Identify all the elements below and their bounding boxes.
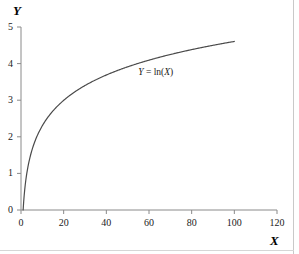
x-tick-label: 60 xyxy=(138,218,160,228)
x-axis-title: X xyxy=(270,234,279,247)
y-tick-label: 4 xyxy=(1,59,13,69)
chart-plot-svg xyxy=(0,0,299,254)
y-tick-label: 2 xyxy=(1,132,13,142)
x-tick-label: 40 xyxy=(95,218,117,228)
annotation-function: ln( xyxy=(154,67,165,77)
x-tick-label: 0 xyxy=(10,218,32,228)
annotation-close-paren: ) xyxy=(170,67,173,77)
y-axis-title: Y xyxy=(13,4,21,17)
x-axis-ticks xyxy=(21,210,277,214)
x-tick-label: 120 xyxy=(266,218,288,228)
page-border-bottom xyxy=(0,250,294,251)
page-border-right xyxy=(293,0,294,254)
y-tick-label: 0 xyxy=(1,205,13,215)
y-axis-ticks xyxy=(17,27,21,210)
curve-ln-x xyxy=(23,41,234,210)
curve-annotation: Y = ln(X) xyxy=(138,68,173,78)
annotation-operator: = xyxy=(144,67,154,77)
x-tick-label: 80 xyxy=(181,218,203,228)
chart-axes xyxy=(21,27,277,210)
x-tick-label: 100 xyxy=(223,218,245,228)
y-tick-label: 3 xyxy=(1,95,13,105)
figure-page: Y X 012345 020406080100120 Y = ln(X) xyxy=(0,0,299,254)
y-tick-label: 1 xyxy=(1,168,13,178)
chart-figure: Y X 012345 020406080100120 Y = ln(X) xyxy=(0,0,299,254)
y-tick-label: 5 xyxy=(1,22,13,32)
x-tick-label: 20 xyxy=(53,218,75,228)
